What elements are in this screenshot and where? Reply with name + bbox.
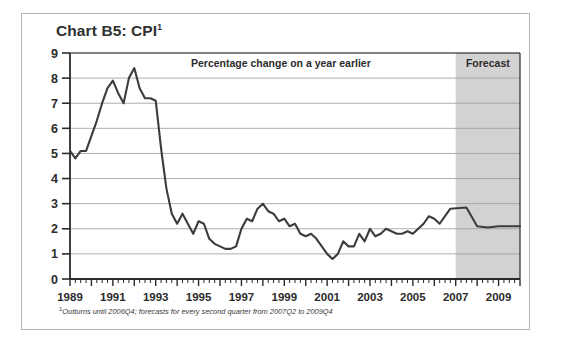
x-axis-label: 2003 — [357, 291, 383, 303]
y-axis-label: 2 — [51, 222, 58, 236]
y-axis-label: 8 — [51, 72, 58, 86]
y-axis-label: 7 — [51, 97, 58, 111]
x-axis-label: 2007 — [443, 291, 469, 303]
cpi-line-chart: 0123456789198919911993199519971999200120… — [22, 14, 531, 331]
footnote-text: Outturns until 2006Q4; forecasts for eve… — [62, 307, 332, 316]
y-axis-label: 4 — [51, 172, 58, 186]
cpi-series-line — [70, 68, 520, 259]
y-axis-label: 1 — [51, 247, 58, 261]
x-axis-label: 1999 — [271, 291, 297, 303]
forecast-band — [456, 53, 520, 279]
x-axis-label: 1991 — [100, 291, 126, 303]
x-axis-label: 1997 — [229, 291, 255, 303]
chart-figure: Chart B5: CPI1 0123456789198919911993199… — [21, 13, 530, 330]
x-axis-label: 1995 — [186, 291, 212, 303]
footnote: 1Outturns until 2006Q4; forecasts for ev… — [59, 306, 333, 316]
y-axis-label: 5 — [51, 147, 58, 161]
series-note-annotation: Percentage change on a year earlier — [191, 57, 371, 69]
y-axis-label: 3 — [51, 197, 58, 211]
x-axis-label: 2009 — [486, 291, 512, 303]
x-axis-label: 1989 — [57, 291, 83, 303]
y-axis-label: 0 — [51, 273, 58, 287]
forecast-label: Forecast — [466, 57, 510, 69]
y-axis-label: 9 — [51, 47, 58, 61]
y-axis-label: 6 — [51, 122, 58, 136]
x-axis-label: 2005 — [400, 291, 426, 303]
x-axis-label: 1993 — [143, 291, 169, 303]
x-axis-label: 2001 — [314, 291, 340, 303]
